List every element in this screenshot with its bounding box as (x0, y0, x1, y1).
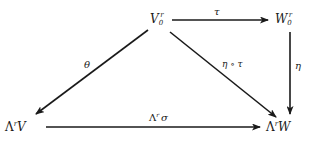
lambda-sigma-sigma: σ (161, 112, 168, 123)
V0r-sub: 0 (159, 19, 163, 27)
node-LrV: ΛrV (5, 121, 26, 133)
LrV-base: V (17, 120, 26, 134)
node-W0r: W0r (275, 12, 292, 27)
LrW-base: W (278, 120, 290, 134)
arrow-theta (36, 30, 148, 114)
label-lambda-sigma: Λrσ (149, 112, 168, 123)
node-LrW: ΛrW (266, 121, 290, 133)
lambda-sigma-sup: r (156, 111, 159, 118)
V0r-sup: r (160, 11, 163, 19)
label-eta: η (295, 61, 301, 71)
W0r-sup: r (289, 11, 292, 19)
V0r-base: V (150, 12, 159, 26)
arrow-eta-tau (170, 32, 276, 117)
W0r-sub: 0 (287, 19, 291, 27)
label-tau: τ (214, 7, 220, 17)
LrW-prefix: Λ (266, 120, 275, 134)
node-V0r: V0r (150, 12, 164, 27)
label-eta-tau: η ∘ τ (222, 60, 243, 69)
LrV-prefix: Λ (5, 120, 14, 134)
W0r-base: W (275, 12, 287, 26)
label-theta: θ (84, 60, 90, 70)
